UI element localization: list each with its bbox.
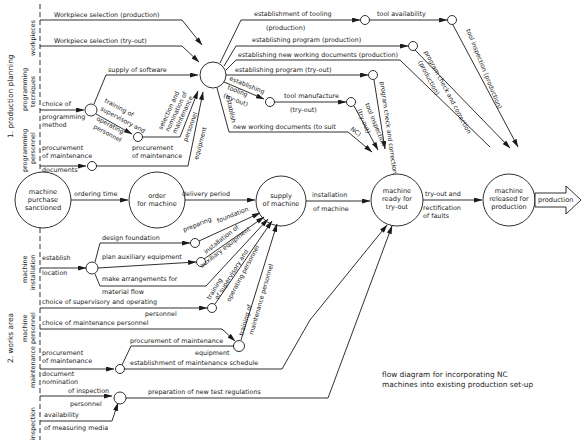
edge-label: personnel (145, 310, 177, 318)
node-label: order (148, 192, 166, 200)
node-label: machine (383, 187, 411, 195)
edge-label: personnel (70, 400, 102, 408)
edge-label: location (42, 269, 67, 277)
edge-label: nomination (42, 378, 78, 386)
edge-label: of maintenance (42, 357, 92, 365)
section-production-planning: 1. production planning (6, 54, 15, 138)
category-machine-personnel: personnel (29, 312, 37, 344)
node-label: ready for (382, 195, 412, 203)
node-label: of machine (263, 200, 300, 208)
node-supervisory-personnel[interactable] (208, 304, 217, 313)
edge-label: of faults (423, 212, 450, 220)
edge-label: procurement (132, 144, 174, 152)
node-label: purchase (28, 196, 58, 204)
category-machine-personnel: machine (21, 314, 29, 342)
edge-label: NC) (349, 125, 362, 137)
category-programming-personnel: personnel (29, 132, 37, 164)
edge-workpiece-tryout (40, 46, 199, 62)
node-tooling-tryout[interactable] (266, 98, 275, 107)
node-label: try-out (386, 203, 409, 211)
edge-label: choice of supervisory and operating (42, 298, 157, 306)
edge-label: establishing program (production) (252, 36, 361, 44)
edge-label: plan auxiliary equipment (102, 253, 182, 261)
output-label: production (538, 196, 573, 204)
node-label: released for (489, 195, 529, 203)
edge-label: tool manufacture (284, 92, 339, 100)
edge-label: establishing program (try-out) (235, 66, 332, 74)
edge-label: installation (312, 191, 347, 199)
node-planning-hub[interactable] (200, 62, 226, 88)
node-maintenance-personnel[interactable] (234, 341, 245, 352)
category-machine-installation: machine (21, 255, 29, 283)
edge-label: (production) (266, 24, 305, 32)
edge-label: try-out and (425, 190, 461, 198)
edge-label: foundation (216, 205, 250, 224)
edge-label: program check and correction (422, 49, 473, 135)
edge-label: of measuring media (44, 424, 108, 432)
edge-label: preparing (182, 215, 213, 234)
edge-label: procurement of maintenance (130, 337, 223, 345)
edge-label: delivery period (182, 190, 230, 198)
edge-label: choice of maintenance personnel (42, 319, 149, 327)
diagram-caption: machines into existing production set-up (382, 380, 534, 389)
edge-label: programming (42, 113, 85, 121)
edge-label: procurement (42, 144, 84, 152)
node-program-production[interactable] (409, 42, 418, 51)
edge-label: method (42, 121, 67, 129)
edge-label: Workpiece selection (production) (54, 11, 159, 19)
nc-flow-diagram: 1. production planning 2. works area wor… (0, 0, 586, 444)
edge-label: supply of software (108, 66, 167, 74)
node-label: machine (495, 187, 523, 195)
edge-label: establishment of maintenance schedule (130, 359, 258, 367)
edge-label: preparation of new test regulations (148, 388, 261, 396)
category-programming-techniques: tecniques (29, 75, 37, 107)
category-machine-installation: installation (29, 255, 37, 290)
edge-label: of maintenance (132, 152, 182, 160)
node-inspection[interactable] (114, 392, 126, 404)
edge-label: availability (44, 411, 79, 419)
edge-tool-inspection-production (453, 25, 518, 147)
edge-label: tool inspection (production) (464, 28, 503, 110)
edge-label: of maintenance (42, 152, 92, 160)
edge-label: choice of (42, 100, 72, 108)
edge-label: equipment (195, 349, 230, 357)
edge-plan-auxiliary (98, 262, 196, 268)
section-works-area: 2. works area (6, 313, 15, 363)
edge-label: Workpiece selection (try-out) (54, 37, 147, 45)
edge-label: make arrangements for (102, 275, 178, 283)
node-label: machine (29, 188, 57, 196)
node-label: sanctioned (25, 204, 61, 212)
edge-label: establishing new working documents (prod… (238, 51, 398, 59)
node-label: for machine (137, 200, 177, 208)
node-location[interactable] (86, 262, 98, 274)
edge-label: of inspection (68, 387, 109, 395)
edge-label: design foundation (102, 234, 160, 242)
node-procurement-documents[interactable] (88, 162, 97, 171)
node-tool-availability[interactable] (448, 16, 457, 25)
node-training[interactable] (134, 133, 143, 142)
edge-label: procurement (42, 349, 84, 357)
category-maintenance: maintenance (29, 346, 37, 388)
node-tooling-production[interactable] (361, 16, 370, 25)
category-programming-personnel: programming (21, 129, 29, 172)
edge-label: ordering time (74, 190, 117, 198)
diagram-caption: flow diagram for incorporating NC (382, 370, 508, 379)
edge-label: of machine (313, 205, 349, 213)
edge-label: (try-out) (290, 106, 317, 114)
node-tool-manufacture[interactable] (347, 98, 356, 107)
node-design-foundation[interactable] (191, 239, 200, 248)
edge-label: material flow (102, 288, 144, 296)
category-inspection: inspection (29, 407, 37, 440)
edge-label: tool availability (377, 10, 426, 18)
edge-label: establishment of tooling (254, 10, 332, 18)
edge-label: document (42, 370, 75, 378)
category-workpieces: workpieces (29, 19, 37, 56)
category-programming-techniques: programming (21, 68, 29, 111)
edge-label: rectification (423, 204, 461, 212)
edge-label: new working documents (to suit (233, 123, 336, 131)
edge-label: establish (42, 254, 71, 262)
node-maintenance-document[interactable] (116, 365, 125, 374)
node-program-tryout[interactable] (369, 71, 378, 80)
node-programming-method[interactable] (85, 104, 97, 116)
node-label: production (491, 203, 526, 211)
